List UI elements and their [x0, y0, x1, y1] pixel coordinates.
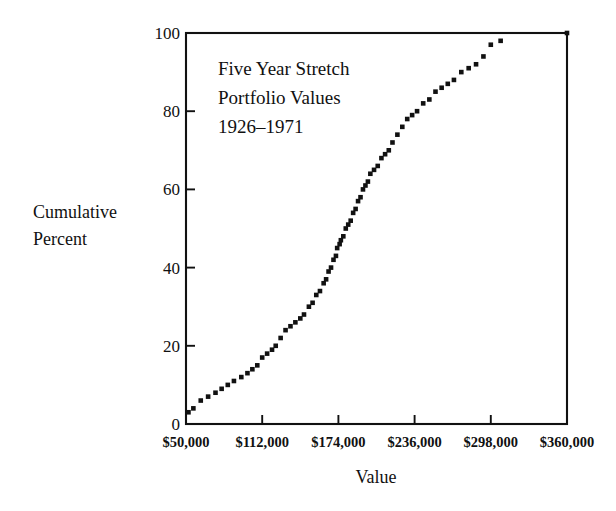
- data-point: [232, 379, 237, 384]
- data-point: [481, 54, 486, 59]
- x-axis-tickmarks: [262, 415, 491, 424]
- data-point: [386, 148, 391, 153]
- data-point: [405, 117, 410, 122]
- y-tick-label-100: 100: [155, 24, 181, 43]
- data-point: [410, 113, 415, 118]
- data-point: [245, 371, 250, 376]
- x-tick-label-174000: $174,000: [311, 434, 365, 450]
- data-point: [206, 394, 211, 399]
- data-point: [265, 351, 270, 356]
- data-point: [452, 78, 457, 83]
- data-point: [466, 66, 471, 71]
- data-point: [375, 164, 380, 169]
- y-tick-label-40: 40: [163, 259, 180, 278]
- data-point: [293, 320, 298, 325]
- x-tick-label-298000: $298,000: [464, 434, 518, 450]
- x-axis-title: Value: [356, 467, 397, 487]
- data-point: [353, 207, 358, 212]
- cumulative-percent-scatter-chart: 020406080100 $50,000$112,000$174,000$236…: [0, 0, 616, 511]
- data-point: [198, 398, 203, 403]
- data-point: [433, 89, 438, 94]
- data-point: [318, 289, 323, 294]
- chart-title-line-2: Portfolio Values: [218, 87, 341, 108]
- data-point: [283, 328, 288, 333]
- data-point: [219, 387, 224, 392]
- data-point: [239, 375, 244, 380]
- data-point: [310, 300, 315, 305]
- chart-page: 020406080100 $50,000$112,000$174,000$236…: [0, 0, 616, 511]
- data-point: [334, 254, 339, 259]
- data-point: [474, 62, 479, 67]
- data-point: [415, 109, 420, 114]
- data-point: [250, 367, 255, 372]
- data-point: [439, 85, 444, 90]
- y-tick-label-60: 60: [163, 180, 180, 199]
- x-axis-tick-labels: $50,000$112,000$174,000$236,000$298,000$…: [162, 434, 594, 450]
- data-point: [427, 97, 432, 102]
- data-point: [273, 344, 278, 349]
- data-point: [400, 125, 405, 130]
- data-point: [324, 277, 329, 282]
- y-axis-label-line-2: Percent: [33, 229, 87, 249]
- y-axis-tick-labels: 020406080100: [155, 24, 181, 434]
- x-tick-label-50000: $50,000: [162, 434, 209, 450]
- data-point: [390, 140, 395, 145]
- data-point: [395, 132, 400, 137]
- data-point: [288, 324, 293, 329]
- data-point: [498, 39, 503, 44]
- data-point: [348, 218, 353, 223]
- y-axis-label-line-1: Cumulative: [33, 202, 117, 222]
- data-point: [366, 179, 371, 184]
- data-point: [565, 31, 570, 36]
- data-point: [213, 390, 218, 395]
- y-tick-label-0: 0: [172, 415, 181, 434]
- chart-title-line-1: Five Year Stretch: [218, 58, 350, 79]
- data-point: [225, 383, 230, 388]
- data-point: [489, 42, 494, 47]
- data-point: [302, 312, 307, 317]
- data-point: [186, 410, 191, 415]
- y-axis-tickmarks: [186, 111, 195, 346]
- y-tick-label-20: 20: [163, 337, 180, 356]
- y-tick-label-80: 80: [163, 102, 180, 121]
- data-point: [445, 82, 450, 87]
- data-point: [278, 336, 283, 341]
- data-point: [341, 234, 346, 239]
- chart-title-line-3: 1926–1971: [218, 116, 304, 137]
- x-tick-label-112000: $112,000: [235, 434, 289, 450]
- x-tick-label-360000: $360,000: [540, 434, 594, 450]
- data-point: [329, 265, 334, 270]
- data-point: [459, 70, 464, 75]
- x-tick-label-236000: $236,000: [387, 434, 441, 450]
- data-point: [421, 101, 426, 106]
- data-point: [191, 406, 196, 411]
- data-point: [255, 363, 260, 368]
- data-point: [260, 355, 265, 360]
- data-point: [358, 195, 363, 200]
